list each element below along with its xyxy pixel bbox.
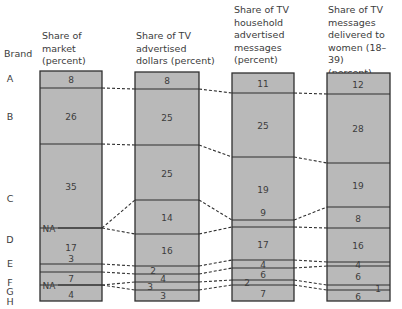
brand-label-a: A (7, 73, 14, 84)
brand-label-e: E (7, 258, 13, 269)
segment-label-f: 4 (260, 260, 266, 270)
chart-canvas: ABCDEFGH82635NA1737NA4825251416243311251… (0, 0, 402, 309)
connector-line (294, 157, 327, 163)
connector-line (199, 280, 232, 282)
connector-line (199, 145, 232, 157)
segment-label-e: 17 (65, 243, 76, 253)
segment-label-f: 2 (150, 266, 156, 276)
segment-label-b: 26 (65, 112, 77, 122)
connector-line (102, 282, 135, 285)
segment-label-g: 6 (355, 272, 361, 282)
segment-label-e: 17 (257, 240, 268, 250)
connector-line (294, 280, 327, 285)
segment-label-c: 19 (352, 181, 364, 191)
segment-label-a: 12 (352, 80, 363, 90)
connector-line (199, 89, 232, 93)
segment-label-g: 6 (260, 270, 266, 280)
segment-label-g: 7 (68, 274, 74, 284)
segment-label-i: 6 (355, 292, 361, 302)
connector-line (102, 144, 135, 145)
segment-label-b: 25 (161, 113, 172, 123)
connector-line (102, 285, 135, 290)
brand-label-c: C (7, 193, 14, 204)
column-bar-2 (135, 72, 199, 301)
segment-label-g: 4 (160, 274, 166, 284)
segment-label-h: 3 (147, 282, 153, 292)
segment-label-e: 16 (352, 241, 364, 251)
brand-label-b: B (7, 111, 14, 122)
segment-label-d: NA (43, 224, 57, 234)
connector-line (199, 227, 232, 234)
segment-label-c: 35 (65, 182, 76, 192)
connector-line (199, 260, 232, 266)
segment-label-d: 9 (260, 208, 266, 218)
connector-line (102, 264, 135, 266)
segment-label-e: 16 (161, 246, 173, 256)
brand-label-h: H (6, 296, 13, 307)
connector-line (102, 88, 135, 89)
connector-line (102, 200, 135, 228)
connector-line (199, 285, 232, 290)
connector-line (199, 268, 232, 274)
connector-line (294, 227, 327, 228)
segment-label-b: 25 (257, 121, 268, 131)
segment-label-a: 8 (68, 75, 74, 85)
segment-label-i: 3 (160, 291, 166, 301)
segment-label-d: 14 (161, 213, 173, 223)
segment-label-d: 8 (355, 214, 361, 224)
connector-line (294, 93, 327, 94)
segment-label-f: 4 (355, 260, 361, 270)
segment-label-a: 8 (164, 76, 170, 86)
connector-line (294, 285, 327, 290)
brand-label-d: D (6, 234, 13, 245)
segment-label-c: 25 (161, 169, 172, 179)
segment-label-h: NA (43, 281, 57, 291)
connector-line (294, 260, 327, 262)
connector-line (102, 272, 135, 274)
segment-label-a: 11 (257, 79, 268, 89)
segment-label-i: 7 (260, 289, 266, 299)
segment-label-b: 28 (352, 124, 364, 134)
segment-label-h: 1 (375, 284, 381, 294)
segment-label-c: 19 (257, 185, 269, 195)
connector-line (294, 266, 327, 268)
segment-label-h: 2 (244, 278, 250, 288)
segment-label-f: 3 (68, 254, 74, 264)
segment-label-i: 4 (68, 290, 74, 300)
connector-line (102, 228, 135, 234)
connector-line (199, 200, 232, 220)
connector-line (294, 207, 327, 220)
